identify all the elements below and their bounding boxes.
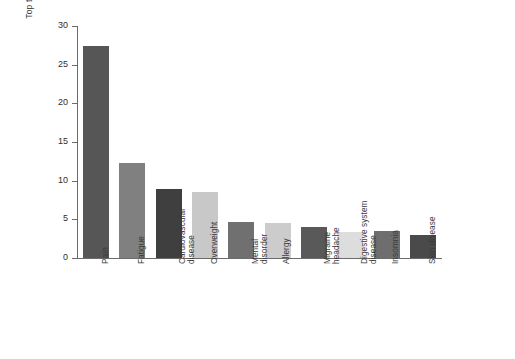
y-tick-mark xyxy=(72,103,77,104)
y-tick-label: 5 xyxy=(26,214,68,223)
y-tick-mark xyxy=(72,142,77,143)
y-tick-mark xyxy=(72,26,77,27)
x-axis-label: Pain xyxy=(101,174,127,264)
y-tick-label-container: 0 xyxy=(24,253,68,262)
y-tick-label: 20 xyxy=(26,98,68,107)
x-axis-label: Allergy xyxy=(282,174,308,264)
x-axis-label: Insomnia xyxy=(391,174,417,264)
y-tick-label: 30 xyxy=(26,21,68,30)
y-tick-label-container: 30 xyxy=(24,21,68,30)
y-tick-label-container: 5 xyxy=(24,214,68,223)
y-tick-label-container: 15 xyxy=(24,137,68,146)
x-axis-label: Migraine headache xyxy=(323,174,349,264)
bar-chart: Top ten conditions (%) 051015202530 Pain… xyxy=(0,0,515,359)
y-tick-label: 25 xyxy=(26,60,68,69)
x-axis-label: Cardiovascular disease xyxy=(178,174,204,264)
y-tick-label: 0 xyxy=(26,253,68,262)
y-axis-title: Top ten conditions (%) xyxy=(22,0,36,60)
x-axis-label: Mental disorder xyxy=(251,174,277,264)
y-tick-label: 15 xyxy=(26,137,68,146)
y-axis-line xyxy=(77,26,78,259)
x-axis-label: Fatigue xyxy=(137,174,163,264)
y-tick-mark xyxy=(72,219,77,220)
x-axis-label: Digestive system disease xyxy=(360,174,386,264)
y-tick-label-container: 10 xyxy=(24,176,68,185)
y-tick-mark xyxy=(72,258,77,259)
y-tick-label-container: 25 xyxy=(24,60,68,69)
x-axis-label: Overweight xyxy=(210,174,236,264)
y-tick-mark xyxy=(72,65,77,66)
y-tick-label: 10 xyxy=(26,176,68,185)
x-axis-label: Skin disease xyxy=(428,174,454,264)
y-tick-mark xyxy=(72,181,77,182)
y-tick-label-container: 20 xyxy=(24,98,68,107)
